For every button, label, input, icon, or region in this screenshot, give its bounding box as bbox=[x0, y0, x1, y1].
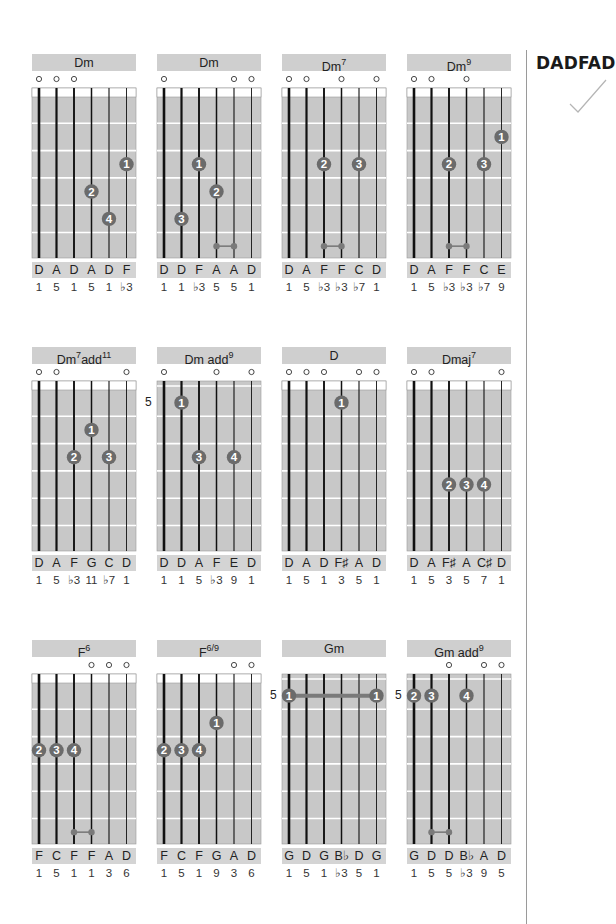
open-string-marker bbox=[161, 369, 166, 374]
chord-diagram: Dm9123DAFFCE15♭3♭3♭79 bbox=[407, 54, 511, 289]
chord-extension: 7 bbox=[471, 350, 476, 360]
finger-marker: 3 bbox=[424, 688, 438, 702]
open-string-marker bbox=[304, 76, 309, 81]
fretboard: 124 bbox=[32, 74, 136, 269]
chord-extension: 6 bbox=[85, 643, 90, 653]
note-name: A bbox=[477, 848, 491, 865]
note-name: B♭ bbox=[460, 848, 474, 865]
svg-text:4: 4 bbox=[481, 479, 488, 491]
svg-text:1: 1 bbox=[178, 397, 185, 409]
note-name: C bbox=[352, 262, 366, 279]
chord-name: Gm bbox=[324, 642, 344, 656]
intervals-row: 115♭391 bbox=[157, 572, 261, 588]
open-string-marker bbox=[446, 662, 451, 667]
note-name: A bbox=[460, 555, 474, 572]
finger-marker: 2 bbox=[407, 688, 421, 702]
interval-label: 5 bbox=[492, 865, 512, 881]
svg-text:1: 1 bbox=[196, 158, 203, 170]
note-name: D bbox=[175, 262, 189, 279]
note-name: A bbox=[102, 848, 116, 865]
finger-marker: 2 bbox=[32, 743, 46, 757]
svg-text:4: 4 bbox=[196, 744, 203, 756]
finger-marker: 1 bbox=[282, 688, 296, 702]
open-string-marker bbox=[429, 369, 434, 374]
chord-extension: 7 bbox=[341, 57, 346, 67]
svg-text:2: 2 bbox=[321, 158, 327, 170]
note-name: F bbox=[192, 262, 206, 279]
tie-dot bbox=[463, 243, 469, 249]
tie-dot bbox=[446, 243, 452, 249]
chord-diagram: Gm115GDGB♭DG151♭351 bbox=[282, 640, 386, 875]
note-name: D bbox=[245, 262, 259, 279]
intervals-row: 151136 bbox=[32, 865, 136, 881]
open-string-marker bbox=[231, 76, 236, 81]
note-name: A bbox=[210, 262, 224, 279]
svg-text:1: 1 bbox=[123, 158, 130, 170]
note-name: D bbox=[67, 262, 81, 279]
note-name: A bbox=[352, 555, 366, 572]
chord-title: Dm9 bbox=[407, 54, 511, 71]
start-fret-number: 5 bbox=[145, 395, 152, 409]
finger-marker: 4 bbox=[459, 688, 473, 702]
note-name: D bbox=[120, 555, 134, 572]
interval-label: 1 bbox=[367, 865, 387, 881]
open-string-marker bbox=[214, 369, 219, 374]
svg-text:2: 2 bbox=[446, 158, 452, 170]
open-string-marker bbox=[429, 76, 434, 81]
chord-extension: 9 bbox=[479, 643, 484, 653]
chord-name: F bbox=[199, 646, 207, 660]
open-string-marker bbox=[231, 662, 236, 667]
finger-marker: 2 bbox=[317, 157, 331, 171]
open-string-marker bbox=[161, 76, 166, 81]
note-name: B♭ bbox=[335, 848, 349, 865]
chord-title: Dmaj7 bbox=[407, 347, 511, 364]
intervals-row: 11♭3551 bbox=[157, 279, 261, 295]
note-name: F bbox=[460, 262, 474, 279]
svg-text:1: 1 bbox=[286, 690, 293, 702]
chord-name: D bbox=[329, 349, 338, 363]
note-names-row: FCFFAD bbox=[32, 848, 136, 864]
note-name: A bbox=[300, 262, 314, 279]
note-name: D bbox=[317, 555, 331, 572]
note-name: D bbox=[102, 262, 116, 279]
note-name: F bbox=[120, 262, 134, 279]
chord-diagram: Gm add92345GDDB♭AD155♭395 bbox=[407, 640, 511, 875]
fretboard: 123 bbox=[157, 74, 261, 269]
note-name: G bbox=[370, 848, 384, 865]
note-names-row: DADADF bbox=[32, 262, 136, 278]
note-names-row: GDDB♭AD bbox=[407, 848, 511, 864]
fretboard: 1234 bbox=[157, 660, 261, 855]
open-string-marker bbox=[411, 76, 416, 81]
svg-text:3: 3 bbox=[53, 744, 59, 756]
chord-extension: 9 bbox=[466, 57, 471, 67]
note-name: D bbox=[425, 848, 439, 865]
open-string-marker bbox=[249, 76, 254, 81]
note-name: F bbox=[210, 555, 224, 572]
page-divider-rule bbox=[526, 50, 527, 924]
open-string-marker bbox=[286, 76, 291, 81]
note-names-row: DAFFCE bbox=[407, 262, 511, 278]
chord-title: Gm bbox=[282, 640, 386, 657]
fretboard: 11 bbox=[282, 660, 386, 855]
note-name: D bbox=[282, 262, 296, 279]
note-name: A bbox=[227, 848, 241, 865]
finger-marker: 1 bbox=[209, 716, 223, 730]
open-string-marker bbox=[249, 369, 254, 374]
svg-text:4: 4 bbox=[71, 744, 78, 756]
note-name: F bbox=[67, 555, 81, 572]
svg-text:3: 3 bbox=[196, 451, 202, 463]
tie-dot bbox=[88, 829, 94, 835]
finger-marker: 1 bbox=[174, 395, 188, 409]
note-name: F bbox=[32, 848, 46, 865]
svg-text:3: 3 bbox=[356, 158, 362, 170]
svg-text:3: 3 bbox=[106, 451, 112, 463]
intervals-row: 151351 bbox=[282, 572, 386, 588]
fretboard: 123 bbox=[32, 367, 136, 562]
chord-title: Dm bbox=[157, 54, 261, 71]
open-string-marker bbox=[464, 76, 469, 81]
note-name: F♯ bbox=[335, 555, 349, 572]
note-name: D bbox=[245, 555, 259, 572]
interval-label: 1 bbox=[367, 279, 387, 295]
interval-label: 1 bbox=[242, 279, 262, 295]
note-name: D bbox=[157, 262, 171, 279]
